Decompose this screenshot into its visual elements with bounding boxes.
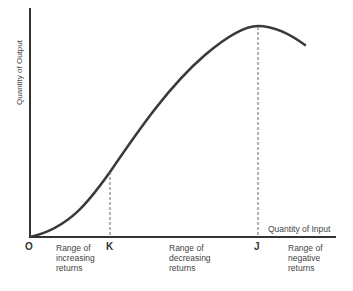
x-axis-label: Quantity of Input xyxy=(268,224,330,234)
range-increasing-label: Range of increasing returns xyxy=(56,243,95,273)
y-axis-label: Quantity of Output xyxy=(15,28,24,118)
range-decreasing-label: Range of decreasing returns xyxy=(169,243,211,273)
output-curve xyxy=(30,26,305,237)
j-label: J xyxy=(254,241,260,252)
range-negative-label: Range of negative returns xyxy=(288,243,323,273)
origin-label: O xyxy=(25,241,33,252)
k-label: K xyxy=(106,241,113,252)
